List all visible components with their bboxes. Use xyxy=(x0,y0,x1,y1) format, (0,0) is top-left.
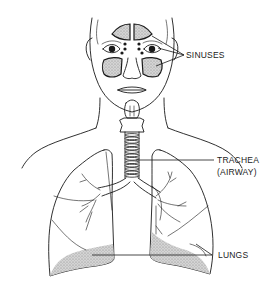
left-lung-fissure-1 xyxy=(54,196,94,201)
neck-left xyxy=(96,98,100,128)
frontal-sinus-left xyxy=(112,24,130,40)
label-sinuses: SINUSES xyxy=(186,50,225,60)
right-lung-cardiac-notch xyxy=(152,186,162,220)
left-lung-inner xyxy=(106,152,112,210)
label-lungs: LUNGS xyxy=(218,250,248,260)
trachea-ring xyxy=(125,137,139,140)
hair-right xyxy=(166,20,168,44)
trachea-ring xyxy=(125,164,139,167)
bronchial-tree xyxy=(80,172,186,234)
left-lung-base-shading xyxy=(50,244,114,276)
trachea-ring xyxy=(125,154,139,157)
nose xyxy=(123,58,141,79)
ethmoid-sinuses xyxy=(120,42,143,54)
right-lung-fissure-1 xyxy=(168,206,208,236)
mouth xyxy=(118,87,146,93)
shoulder-left xyxy=(22,128,96,168)
maxillary-sinus-left xyxy=(103,58,123,77)
hair-left xyxy=(97,20,99,44)
trachea-ring xyxy=(125,140,139,143)
left-lung-fissure-2 xyxy=(52,220,86,250)
right-lung-base-shading xyxy=(150,232,210,274)
respiratory-diagram: SINUSES TRACHEA (AIRWAY) LUNGS xyxy=(0,0,265,295)
trachea-ring xyxy=(125,134,139,137)
trachea-ring xyxy=(125,174,139,177)
left-eye xyxy=(102,41,121,53)
trachea-ring xyxy=(125,171,139,174)
trachea-ring xyxy=(125,161,139,164)
label-trachea: TRACHEA xyxy=(217,155,259,165)
trachea-ring xyxy=(125,168,139,171)
maxillary-sinus-right xyxy=(142,58,162,77)
trachea-ring xyxy=(125,151,139,154)
trachea-ring xyxy=(125,144,139,147)
larynx xyxy=(120,100,144,132)
right-main-bronchus xyxy=(138,178,160,192)
trachea xyxy=(125,132,139,178)
frontal-sinus-right xyxy=(134,24,152,40)
right-eye xyxy=(143,41,162,53)
trachea-ring xyxy=(125,147,139,150)
neck-right xyxy=(164,98,168,128)
left-lung xyxy=(49,150,114,276)
label-airway: (AIRWAY) xyxy=(217,167,257,177)
